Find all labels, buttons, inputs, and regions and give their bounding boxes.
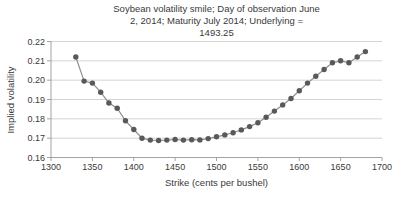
data-point bbox=[222, 132, 227, 137]
y-tick-label: 0.21 bbox=[27, 56, 45, 66]
y-tick-label: 0.20 bbox=[27, 75, 45, 85]
data-point bbox=[131, 127, 136, 132]
data-point bbox=[148, 137, 153, 142]
data-point bbox=[73, 54, 78, 59]
data-point bbox=[330, 60, 335, 65]
x-tick-label: 1450 bbox=[165, 162, 185, 172]
x-axis-title: Strike (cents per bushel) bbox=[36, 177, 397, 188]
x-tick-label: 1400 bbox=[124, 162, 144, 172]
y-tick-label: 0.19 bbox=[27, 95, 45, 105]
data-point bbox=[346, 60, 351, 65]
y-tick-label: 0.17 bbox=[27, 133, 45, 143]
data-point bbox=[81, 78, 86, 83]
data-point bbox=[239, 127, 244, 132]
plot-area: 0.160.170.180.190.200.210.22130013501400… bbox=[0, 0, 397, 199]
y-tick-label: 0.22 bbox=[27, 37, 45, 47]
data-point bbox=[206, 136, 211, 141]
data-point bbox=[255, 120, 260, 125]
data-point bbox=[156, 138, 161, 143]
series-line bbox=[76, 52, 366, 141]
x-tick-label: 1300 bbox=[41, 162, 61, 172]
x-tick-label: 1700 bbox=[372, 162, 392, 172]
data-point bbox=[321, 67, 326, 72]
x-tick-label: 1650 bbox=[331, 162, 351, 172]
data-point bbox=[189, 137, 194, 142]
data-point bbox=[214, 134, 219, 139]
data-point bbox=[164, 137, 169, 142]
data-point bbox=[181, 137, 186, 142]
data-point bbox=[197, 137, 202, 142]
data-point bbox=[355, 54, 360, 59]
data-point bbox=[106, 100, 111, 105]
data-point bbox=[90, 80, 95, 85]
data-point bbox=[98, 90, 103, 95]
data-point bbox=[297, 88, 302, 93]
data-point bbox=[247, 124, 252, 129]
volatility-smile-figure: Soybean volatility smile; Day of observa… bbox=[0, 0, 397, 199]
data-point bbox=[272, 108, 277, 113]
x-tick-label: 1550 bbox=[248, 162, 268, 172]
data-point bbox=[230, 130, 235, 135]
data-point bbox=[338, 58, 343, 63]
data-point bbox=[280, 102, 285, 107]
x-tick-label: 1500 bbox=[206, 162, 226, 172]
data-point bbox=[313, 74, 318, 79]
x-tick-label: 1350 bbox=[82, 162, 102, 172]
y-tick-label: 0.16 bbox=[27, 153, 45, 163]
data-point bbox=[139, 136, 144, 141]
data-point bbox=[263, 115, 268, 120]
data-point bbox=[123, 118, 128, 123]
data-point bbox=[363, 49, 368, 54]
data-point bbox=[172, 137, 177, 142]
y-tick-label: 0.18 bbox=[27, 114, 45, 124]
data-point bbox=[305, 80, 310, 85]
data-point bbox=[288, 96, 293, 101]
x-tick-label: 1600 bbox=[289, 162, 309, 172]
data-point bbox=[115, 106, 120, 111]
